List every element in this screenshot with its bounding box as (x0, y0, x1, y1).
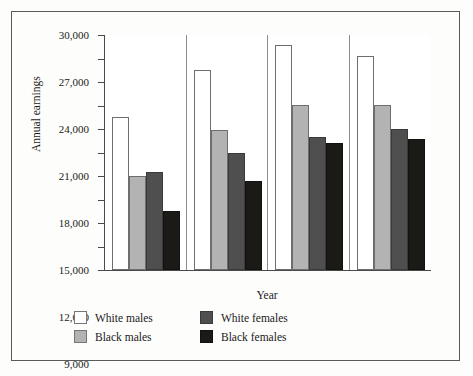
legend-item-black-females: Black females (200, 327, 288, 346)
bar-black-females-1967 (245, 181, 262, 270)
bar-black-males-1967 (211, 130, 228, 270)
y-axis-line (104, 35, 105, 271)
y-tick-label: 24,000 (59, 124, 89, 135)
bar-white-females-1987 (391, 129, 408, 270)
y-tick-mark: 0 (98, 270, 104, 271)
y-tick-mark: 12,000 (98, 176, 104, 177)
legend-label-black-males: Black males (95, 331, 152, 343)
y-tick-mark: 15,000 (98, 153, 104, 154)
legend-swatch-white-females (200, 311, 213, 324)
legend-item-white-males: White males (74, 308, 153, 327)
y-tick-mark: 27,000 (98, 59, 104, 60)
bar-black-females-1977 (326, 143, 343, 270)
legend-label-black-females: Black females (221, 331, 286, 343)
legend-item-white-females: White females (200, 308, 288, 327)
bar-white-males-1957 (112, 117, 129, 270)
y-axis-label: Annual earnings (30, 76, 42, 152)
legend-label-white-females: White females (221, 312, 288, 324)
bar-white-females-1957 (146, 172, 163, 270)
y-tick-mark: 21,000 (98, 106, 104, 107)
legend-column-right: White females Black females (200, 308, 288, 346)
legend-swatch-white-males (74, 311, 87, 324)
group-separator (349, 35, 350, 270)
bar-black-males-1957 (129, 176, 146, 270)
y-tick-label: 18,000 (59, 218, 89, 229)
legend-label-white-males: White males (95, 312, 153, 324)
y-tick-label: 9,000 (64, 359, 89, 370)
bar-black-females-1957 (163, 211, 180, 270)
y-tick-label: 15,000 (59, 265, 89, 276)
y-tick-mark: 3,000 (98, 247, 104, 248)
bar-white-females-1967 (228, 153, 245, 271)
y-tick-mark: 9,000 (98, 200, 104, 201)
y-tick-mark: 6,000 (98, 223, 104, 224)
bar-black-males-1977 (292, 105, 309, 270)
legend-swatch-black-males (74, 330, 87, 343)
y-tick-mark: 30,000 (98, 35, 104, 36)
bar-white-females-1977 (309, 137, 326, 270)
bar-black-females-1987 (408, 139, 425, 270)
group-separator (267, 35, 268, 270)
legend-swatch-black-females (200, 330, 213, 343)
x-axis-label: Year (104, 289, 430, 301)
y-tick-label: 27,000 (59, 77, 89, 88)
bar-white-males-1977 (275, 45, 292, 270)
figure: Annual earnings 03,0006,0009,00012,00015… (0, 0, 473, 376)
legend-column-left: White males Black males (74, 308, 153, 346)
bar-black-males-1987 (374, 105, 391, 270)
bar-white-males-1967 (194, 70, 211, 270)
legend-item-black-males: Black males (74, 327, 153, 346)
x-axis-line (104, 270, 431, 271)
plot-area: 03,0006,0009,00012,00015,00018,00021,000… (104, 35, 430, 270)
y-tick-label: 30,000 (59, 30, 89, 41)
group-separator (186, 35, 187, 270)
y-tick-mark: 18,000 (98, 129, 104, 130)
bar-white-males-1987 (357, 56, 374, 270)
y-tick-label: 21,000 (59, 171, 89, 182)
y-tick-mark: 24,000 (98, 82, 104, 83)
